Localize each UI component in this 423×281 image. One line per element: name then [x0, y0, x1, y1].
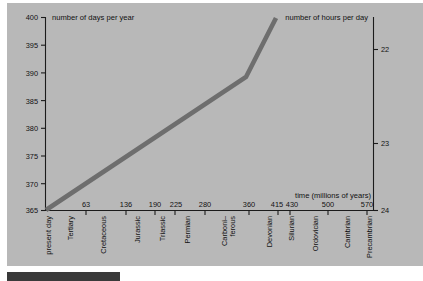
- chart-svg: 400 395 390 385 380 375 370 365 number o…: [0, 0, 423, 281]
- period-label-precambrian: Precambrian: [365, 216, 374, 258]
- period-label-present-day: present day: [44, 216, 53, 255]
- y-tick-label-400: 400: [26, 13, 38, 22]
- period-label-tertiary: Tertiary: [66, 216, 75, 241]
- x-tick-label-63: 63: [82, 200, 90, 209]
- period-label-permian: Permian: [183, 216, 192, 244]
- period-label-ordovician: Ordovician: [311, 216, 320, 251]
- x-tick-label-360: 360: [243, 200, 255, 209]
- y-axis-right-title: number of hours per day: [285, 13, 368, 22]
- x-tick-label-570: 570: [361, 200, 373, 209]
- x-tick-label-500: 500: [322, 200, 334, 209]
- y2-tick-label-23: 23: [381, 139, 389, 148]
- y-tick-label-395: 395: [26, 41, 38, 50]
- x-tick-label-430: 430: [286, 200, 298, 209]
- chart-page: 400 395 390 385 380 375 370 365 number o…: [0, 0, 423, 281]
- x-tick-label-415: 415: [271, 200, 283, 209]
- y-tick-label-375: 375: [26, 152, 38, 161]
- y-tick-label-380: 380: [26, 124, 38, 133]
- period-label-jurassic: Jurassic: [133, 216, 142, 243]
- x-axis-ticks: [86, 211, 367, 216]
- y-tick-label-370: 370: [26, 180, 38, 189]
- period-label-silurian: Silurian: [287, 216, 296, 241]
- y2-tick-label-24: 24: [381, 206, 389, 215]
- x-axis-title: time (millions of years): [295, 191, 371, 200]
- x-tick-label-225: 225: [170, 200, 182, 209]
- y2-tick-label-22: 22: [381, 45, 389, 54]
- y-axis-left-ticks: [41, 18, 46, 211]
- period-label-cretaceous: Cretaceous: [99, 216, 108, 254]
- x-tick-label-136: 136: [120, 200, 132, 209]
- y-tick-label-365: 365: [26, 206, 38, 215]
- y-axis-left-title: number of days per year: [52, 13, 135, 22]
- period-label-triassic: Triassic: [158, 216, 167, 241]
- x-tick-label-280: 280: [199, 200, 211, 209]
- data-series-length-of-year: [46, 18, 276, 210]
- period-label-carboniferous-line2: ferous: [228, 216, 237, 237]
- y-tick-label-390: 390: [26, 69, 38, 78]
- period-label-cambrian: Cambrian: [343, 216, 352, 248]
- x-tick-label-190: 190: [149, 200, 161, 209]
- period-labels: present day Tertiary Cretaceous Jurassic…: [44, 215, 374, 258]
- y-axis-right-ticks: [374, 50, 379, 211]
- y-tick-label-385: 385: [26, 97, 38, 106]
- period-label-devonian: Devonian: [265, 216, 274, 247]
